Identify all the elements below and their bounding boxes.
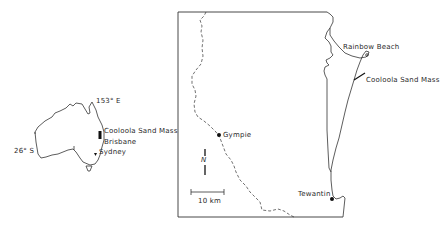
scale-bar-label: 10 km	[198, 197, 221, 205]
map-canvas	[0, 0, 445, 230]
north-arrow-label: N	[201, 156, 206, 164]
inset-label-cooloola: Cooloola Sand Mass	[104, 127, 177, 135]
longitude-label: 153° E	[96, 97, 121, 105]
inset-label-brisbane: Brisbane	[104, 138, 136, 146]
gympie-marker	[217, 133, 221, 137]
label-rainbow-beach: Rainbow Beach	[343, 43, 399, 51]
sydney-inset-marker	[94, 153, 97, 156]
estuary-shore	[324, 28, 333, 172]
tasmania-outline	[86, 166, 92, 171]
cooloola-inset-marker	[99, 131, 102, 139]
latitude-label: 26° S	[14, 147, 34, 155]
scale-bar	[191, 189, 224, 195]
label-gympie: Gympie	[223, 131, 251, 139]
inset-label-sydney: Sydney	[99, 148, 126, 156]
label-cooloola-sand-mass: Cooloola Sand Mass	[366, 76, 439, 84]
label-tewantin: Tewantin	[298, 190, 331, 198]
catchment-boundary	[192, 12, 294, 217]
map-frame	[178, 12, 343, 217]
australia-outline	[35, 102, 104, 165]
